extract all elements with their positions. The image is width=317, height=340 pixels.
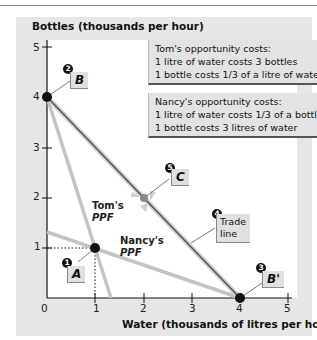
point-a [90,243,100,253]
tom-box-title: Tom's opportunity costs: [155,42,317,55]
trade-line-label: Trade line [216,214,250,243]
tom-ppf-label: Tom's PPF [92,200,124,224]
nancy-ppf-label: Nancy's PPF [120,235,164,259]
nancy-box-title: Nancy's opportunity costs: [155,95,317,108]
point-a-label: A [67,266,85,283]
nancy-box-line1: 1 litre of water costs 1/3 of a bottle [155,108,317,121]
point-c-label: C [171,169,189,186]
nancy-opportunity-costs-box: Nancy's opportunity costs: 1 litre of wa… [148,93,317,138]
point-b-prime-label: B' [262,271,284,288]
point-c [140,194,148,202]
tom-box-line2: 1 bottle costs 1/3 of a litre of water [155,68,317,81]
nancy-box-line2: 1 bottle costs 3 litres of water [155,121,317,134]
point-b [42,92,52,102]
point-b-prime [235,293,245,303]
point-b-label: B [70,72,88,89]
tom-opportunity-costs-box: Tom's opportunity costs: 1 litre of wate… [148,40,317,85]
tom-box-line1: 1 litre of water costs 3 bottles [155,55,317,68]
